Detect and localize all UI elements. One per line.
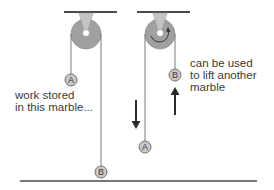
up-arrow-icon [171, 87, 180, 115]
svg-text:B: B [172, 70, 178, 80]
left-caption-line-2: in this marble... [15, 101, 93, 113]
svg-text:A: A [68, 75, 74, 85]
left-pulley-axle [83, 30, 90, 37]
svg-text:B: B [98, 167, 104, 177]
left-caption-line-1: work stored [15, 89, 93, 101]
left-caption: work stored in this marble... [15, 89, 93, 113]
right-pulley-axle [157, 30, 164, 37]
right-marble-a: A [139, 141, 151, 153]
left-marble-a: A [65, 74, 77, 86]
down-arrow-icon [132, 100, 141, 129]
right-caption-line-2: to lift another [190, 69, 256, 81]
right-pulley-system: B A [137, 12, 190, 153]
svg-text:A: A [142, 142, 148, 152]
right-caption-line-1: can be used [190, 57, 256, 69]
left-marble-b: B [95, 166, 107, 178]
right-caption: can be used to lift another marble [190, 57, 256, 93]
right-caption-line-3: marble [190, 81, 256, 93]
right-marble-b: B [169, 69, 181, 81]
